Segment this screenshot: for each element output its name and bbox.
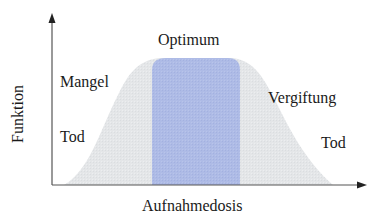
x-axis-arrow-icon bbox=[357, 182, 367, 189]
deficiency-label: Mangel bbox=[60, 74, 109, 90]
optimum-label: Optimum bbox=[158, 32, 219, 48]
optimum-region bbox=[152, 58, 240, 185]
toxicity-label: Vergiftung bbox=[268, 90, 336, 106]
x-axis-label: Aufnahmedosis bbox=[142, 198, 242, 214]
y-axis-label: Funktion bbox=[10, 85, 26, 143]
y-axis-arrow-icon bbox=[49, 13, 56, 23]
death-left-label: Tod bbox=[60, 129, 85, 145]
death-right-label: Tod bbox=[321, 135, 346, 151]
